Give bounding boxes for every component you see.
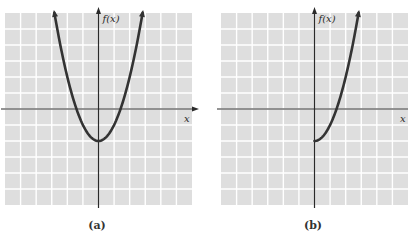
y-axis-label: f(x) bbox=[102, 13, 120, 24]
x-axis-label: x bbox=[184, 113, 190, 124]
y-axis-label: f(x) bbox=[318, 13, 336, 24]
x-axis-arrow-icon bbox=[192, 107, 199, 112]
graph-a: f(x)x bbox=[0, 0, 200, 243]
graph-b: f(x)x bbox=[216, 0, 408, 243]
caption-a: (a) bbox=[77, 219, 117, 232]
panel-a: f(x)x bbox=[0, 0, 200, 243]
x-axis-label: x bbox=[400, 113, 406, 124]
y-axis-arrow-icon bbox=[312, 7, 317, 14]
caption-b: (b) bbox=[293, 219, 333, 232]
y-axis-arrow-icon bbox=[96, 7, 101, 14]
panel-b: f(x)x bbox=[216, 0, 408, 243]
